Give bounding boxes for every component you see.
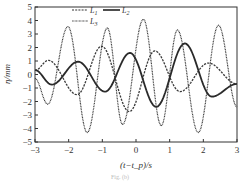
- legend-label-l3: L3: [89, 17, 97, 27]
- legend-subscript: 3: [93, 21, 97, 27]
- series-layer: [35, 19, 237, 132]
- y-tick-label: −1: [22, 83, 32, 93]
- legend-subscript: 2: [126, 10, 129, 16]
- y-tick-label: 4: [28, 16, 33, 26]
- x-tick-label: −2: [64, 145, 74, 155]
- y-tick-label: −4: [22, 124, 32, 134]
- x-tick-label: 1: [167, 145, 172, 155]
- x-tick-label: 2: [201, 145, 206, 155]
- y-tick-label: −5: [22, 137, 32, 147]
- y-axis-label: η/mm: [2, 64, 12, 84]
- x-axis-ticks: −3−2−10123: [30, 139, 240, 155]
- y-tick-label: 1: [28, 56, 33, 66]
- figure-caption: Fig. (b): [111, 174, 129, 181]
- x-axis-label: (t−t_p)/s: [120, 160, 153, 170]
- legend-subscript: 1: [94, 10, 97, 16]
- series-line-l1: [35, 46, 237, 111]
- y-axis-ticks: 543210−1−2−3−4−5: [22, 2, 38, 147]
- y-tick-label: −2: [22, 97, 32, 107]
- line-chart: −3−2−10123 543210−1−2−3−4−5 (t−t_p)/s η/…: [0, 0, 243, 181]
- y-tick-label: 2: [28, 43, 33, 53]
- x-tick-label: 0: [134, 145, 139, 155]
- plot-frame: [35, 7, 237, 142]
- legend: L1 L2 L3: [72, 6, 129, 27]
- x-tick-label: 3: [235, 145, 240, 155]
- series-line-l3: [35, 19, 237, 132]
- y-tick-label: 5: [28, 2, 33, 12]
- x-tick-label: −1: [98, 145, 108, 155]
- y-tick-label: 0: [28, 70, 33, 80]
- y-tick-label: −3: [22, 110, 32, 120]
- y-tick-label: 3: [28, 29, 33, 39]
